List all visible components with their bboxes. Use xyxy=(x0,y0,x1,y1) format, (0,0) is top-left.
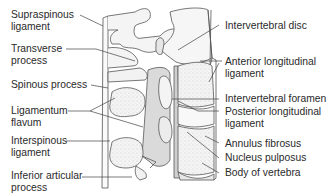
label-spinous-process: Spinous process xyxy=(11,79,87,91)
label-nucleus-pulposus: Nucleus pulposus xyxy=(225,152,306,164)
label-supraspinous-ligament: Supraspinous ligament xyxy=(11,9,74,33)
middle-vertebral-body xyxy=(178,62,214,107)
disc-lower xyxy=(178,106,214,127)
label-inferior-articular-process: Inferior articular process xyxy=(11,170,83,194)
label-interspinous-ligament: Interspinous ligament xyxy=(11,135,67,159)
spinous-process-low xyxy=(110,138,143,168)
inferior-articular-process-shape xyxy=(135,166,146,180)
label-anterior-longitudinal-ligament: Anterior longitudinal ligament xyxy=(225,56,316,80)
label-transverse-process: Transverse process xyxy=(11,43,62,67)
label-ligamentum-flavum: Ligamentum flavum xyxy=(11,105,68,129)
lower-vertebral-body xyxy=(178,126,214,175)
label-annulus-fibrosus: Annulus fibrosus xyxy=(225,138,301,150)
spinous-process-mid xyxy=(110,88,145,117)
label-posterior-longitudinal-ligament: Posterior longitudinal ligament xyxy=(225,106,321,130)
label-body-of-vertebra: Body of vertebra xyxy=(225,167,301,179)
label-intervertebral-foramen: Intervertebral foramen xyxy=(225,93,326,105)
label-intervertebral-disc: Intervertebral disc xyxy=(225,20,307,32)
